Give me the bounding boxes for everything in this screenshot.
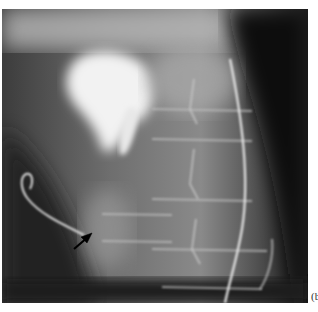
- radiograph-render: [2, 9, 308, 303]
- panel-label: (b: [311, 290, 318, 302]
- xray-image: [2, 9, 308, 303]
